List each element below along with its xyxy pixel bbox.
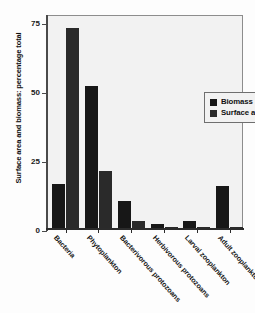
legend-item-biomass: Biomass (210, 97, 255, 107)
bar-group (52, 16, 79, 229)
legend-swatch-surface-area (210, 110, 217, 117)
y-tick-label: 50 (31, 89, 40, 97)
bar-group (118, 16, 145, 229)
x-axis-label: Bacterivorous protozoans (118, 234, 182, 304)
bar-surface-area (99, 171, 112, 229)
bar-surface-area (230, 227, 243, 229)
legend-label-biomass: Biomass (221, 98, 253, 106)
y-axis-title-container: Surface area and biomass: percentage tot… (0, 0, 22, 240)
chart-legend: Biomass Surface area (204, 92, 255, 123)
legend-swatch-biomass (210, 99, 217, 106)
bar-biomass (183, 221, 196, 229)
bar-biomass (52, 184, 65, 229)
bar-biomass (151, 224, 164, 230)
plot-area: 0255075 Biomass Surface area (46, 15, 243, 230)
bar-biomass (118, 201, 131, 229)
bar-biomass (85, 86, 98, 229)
bar-surface-area (165, 227, 178, 229)
bar-group (151, 16, 178, 229)
chart-figure: Surface area and biomass: percentage tot… (0, 0, 255, 313)
bar-surface-area (197, 227, 210, 229)
y-axis-title: Surface area and biomass: percentage tot… (14, 0, 23, 216)
y-tick-label: 0 (36, 227, 40, 235)
y-tick-label: 25 (31, 158, 40, 166)
bar-biomass (216, 186, 229, 229)
bar-group (85, 16, 112, 229)
bar-surface-area (66, 28, 79, 229)
legend-item-surface-area: Surface area (210, 108, 255, 118)
x-axis-label: Phytoplankton (85, 234, 123, 275)
y-tick-label: 75 (31, 20, 40, 28)
x-axis-label: Herbivorous protozoans (151, 234, 211, 299)
bar-surface-area (132, 221, 145, 229)
x-axis-label: Bacteria (52, 234, 76, 260)
legend-label-surface-area: Surface area (221, 109, 255, 117)
x-axis-labels: BacteriaPhytoplanktonBacterivorous proto… (46, 232, 255, 313)
